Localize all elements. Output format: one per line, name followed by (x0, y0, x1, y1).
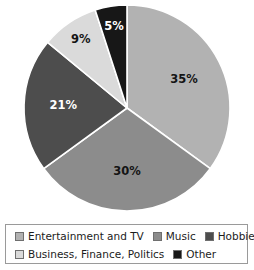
legend-swatch-icon (153, 232, 162, 241)
legend-item-label: Other (186, 249, 216, 260)
legend-item-music[interactable]: Music (153, 231, 196, 242)
pie-slice-label: 9% (71, 32, 91, 46)
legend-item-business-finance-politics[interactable]: Business, Finance, Politics (15, 249, 164, 260)
pie-slice-label: 30% (113, 164, 141, 178)
pie-slice-label: 5% (104, 19, 124, 33)
legend-swatch-icon (15, 232, 24, 241)
legend-item-label: Music (166, 231, 196, 242)
chart-legend: Entertainment and TVMusicHobbies Busines… (5, 224, 248, 264)
pie-slice-label: 35% (170, 72, 198, 86)
legend-swatch-icon (205, 232, 214, 241)
legend-row: Entertainment and TVMusicHobbies (6, 227, 247, 245)
pie-chart-plot-area: 35%30%21%9%5% (0, 0, 254, 218)
legend-row: Business, Finance, PoliticsOther (6, 245, 247, 263)
pie-chart-svg: 35%30%21%9%5% (0, 0, 254, 218)
legend-swatch-icon (173, 250, 182, 259)
pie-slice-label: 21% (49, 98, 77, 112)
legend-item-entertainment-and-tv[interactable]: Entertainment and TV (15, 231, 144, 242)
legend-item-label: Entertainment and TV (28, 231, 144, 242)
pie-chart-figure: 35%30%21%9%5% Entertainment and TVMusicH… (0, 0, 254, 270)
legend-item-hobbies[interactable]: Hobbies (205, 231, 254, 242)
legend-item-label: Business, Finance, Politics (28, 249, 164, 260)
legend-item-other[interactable]: Other (173, 249, 216, 260)
legend-swatch-icon (15, 250, 24, 259)
legend-item-label: Hobbies (218, 231, 254, 242)
